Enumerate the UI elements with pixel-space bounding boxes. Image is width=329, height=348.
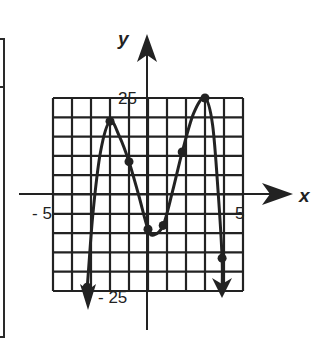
axes <box>19 34 293 330</box>
data-point <box>201 94 210 103</box>
y-min-tick-label: - 25 <box>98 288 127 307</box>
data-point <box>144 225 153 234</box>
y-max-tick-label: 25 <box>118 89 137 108</box>
x-min-tick-label: - 5 <box>32 204 52 223</box>
data-point <box>159 221 168 230</box>
data-point <box>178 148 187 157</box>
data-point <box>106 117 115 126</box>
polynomial-graph: y x 25 - 25 - 5 5 <box>0 0 329 348</box>
data-point <box>125 157 134 166</box>
y-axis-label: y <box>117 28 130 49</box>
x-axis-label: x <box>298 185 311 206</box>
function-curve <box>85 98 222 296</box>
x-max-tick-label: 5 <box>235 204 244 223</box>
data-point <box>218 254 227 263</box>
